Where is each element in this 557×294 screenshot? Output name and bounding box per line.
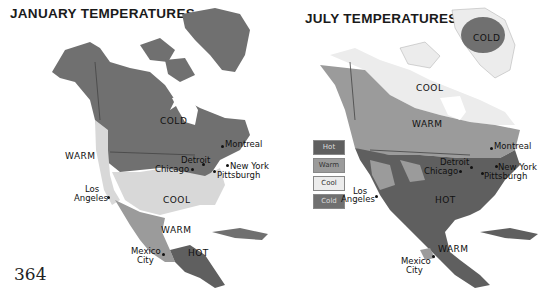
- july-zone-cold: COLD: [473, 33, 500, 43]
- january-city-mexico-city-line2: City: [137, 256, 154, 265]
- january-zone-cold: COLD: [160, 116, 187, 126]
- january-city-montreal: Montreal: [225, 140, 262, 149]
- july-mexico-city-marker: [432, 255, 435, 258]
- january-mexico-city-marker: [162, 253, 165, 256]
- july-detroit-marker: [470, 166, 473, 169]
- january-los-angeles-marker: [107, 196, 110, 199]
- july-zone-warm: WARM: [412, 119, 443, 129]
- july-city-pittsburgh: Pittsburgh: [484, 172, 527, 181]
- july-city-montreal: Montreal: [494, 142, 531, 151]
- july-chicago-marker: [459, 170, 462, 173]
- january-zone-warm-west: WARM: [65, 151, 96, 161]
- july-zone-warm-mexico: WARM: [438, 244, 469, 254]
- january-chicago-marker: [191, 168, 194, 171]
- january-pittsburgh-marker: [213, 170, 216, 173]
- january-zone-warm-mexico: WARM: [161, 225, 192, 235]
- january-city-pittsburgh: Pittsburgh: [217, 171, 260, 180]
- july-los-angeles-marker: [375, 195, 378, 198]
- january-newyork-marker: [226, 164, 229, 167]
- july-montreal-marker: [490, 147, 493, 150]
- july-city-los-angeles-line2: Angeles: [341, 195, 375, 204]
- january-detroit-marker: [202, 163, 205, 166]
- january-zone-hot: HOT: [188, 248, 209, 258]
- july-city-chicago: Chicago: [424, 167, 458, 176]
- page-number: 364: [14, 264, 46, 284]
- january-montreal-marker: [221, 145, 224, 148]
- july-zone-hot: HOT: [435, 195, 456, 205]
- january-zone-cool: COOL: [163, 195, 190, 205]
- july-zone-cool: COOL: [416, 83, 443, 93]
- january-city-los-angeles-line2: Angeles: [74, 194, 108, 203]
- july-city-mexico-city-line2: City: [406, 266, 423, 275]
- january-city-chicago: Chicago: [155, 165, 189, 174]
